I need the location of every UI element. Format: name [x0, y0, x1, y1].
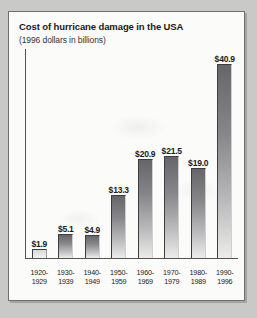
bar-slot: $5.1 — [53, 49, 80, 258]
bar-slot: $40.9 — [212, 49, 239, 258]
x-axis-tick-label: 1990- 1996 — [212, 268, 239, 286]
bar-slot: $1.9 — [26, 49, 53, 258]
page-title: Cost of hurricane damage in the USA — [19, 21, 199, 33]
bar-series: $1.9 $5.1 $4.9 $13.3 $20.9 — [26, 49, 238, 258]
bar[interactable]: $20.9 — [138, 159, 153, 258]
x-tick-line-1: 1950- — [106, 268, 133, 277]
bar-slot: $13.3 — [106, 49, 133, 258]
x-tick-line-1: 1960- — [132, 268, 159, 277]
bar-slot: $4.9 — [79, 49, 106, 258]
x-axis-tick-label: 1960- 1969 — [132, 268, 159, 286]
x-axis-tick-label: 1940- 1949 — [79, 268, 106, 286]
x-tick-line-2: 1989 — [185, 277, 212, 286]
x-axis-tick-label: 1950- 1959 — [106, 268, 133, 286]
bar-value-label: $1.9 — [31, 239, 47, 249]
bar-slot: $21.5 — [159, 49, 186, 258]
x-tick-line-1: 1940- — [79, 268, 106, 277]
bar-value-label: $21.5 — [162, 146, 182, 156]
x-tick-line-2: 1929 — [26, 277, 53, 286]
x-tick-line-1: 1930- — [53, 268, 80, 277]
x-tick-line-1: 1980- — [185, 268, 212, 277]
chart-panel: Cost of hurricane damage in the USA (199… — [8, 11, 245, 301]
bar[interactable]: $13.3 — [111, 195, 126, 258]
bar-value-label: $40.9 — [215, 54, 235, 64]
x-tick-line-1: 1970- — [159, 268, 186, 277]
plot-area: $1.9 $5.1 $4.9 $13.3 $20.9 — [25, 49, 238, 259]
x-axis-tick-label: 1930- 1939 — [53, 268, 80, 286]
x-axis-tick-label: 1920- 1929 — [26, 268, 53, 286]
x-tick-line-2: 1979 — [159, 277, 186, 286]
bar[interactable]: $5.1 — [58, 234, 73, 258]
bar[interactable]: $1.9 — [32, 249, 47, 258]
bar-value-label: $19.0 — [188, 158, 208, 168]
x-axis-tick-labels: 1920- 1929 1930- 1939 1940- 1949 1950- 1… — [26, 268, 238, 286]
bar-value-label: $13.3 — [109, 185, 129, 195]
x-tick-line-1: 1990- — [212, 268, 239, 277]
bar[interactable]: $19.0 — [191, 168, 206, 258]
bar-slot: $20.9 — [132, 49, 159, 258]
x-axis-tick-label: 1980- 1989 — [185, 268, 212, 286]
chart-header: Cost of hurricane damage in the USA (199… — [19, 21, 199, 46]
bar-value-label: $4.9 — [84, 225, 100, 235]
x-axis-line — [25, 258, 238, 259]
x-tick-line-2: 1996 — [212, 277, 239, 286]
bar-value-label: $5.1 — [58, 224, 74, 234]
chart-subtitle: (1996 dollars in billions) — [19, 34, 199, 46]
bar[interactable]: $21.5 — [164, 156, 179, 258]
bar[interactable]: $4.9 — [85, 235, 100, 258]
x-axis-tick-label: 1970- 1979 — [159, 268, 186, 286]
bar-slot: $19.0 — [185, 49, 212, 258]
x-tick-line-2: 1969 — [132, 277, 159, 286]
x-tick-line-2: 1939 — [53, 277, 80, 286]
x-tick-line-2: 1949 — [79, 277, 106, 286]
bar-value-label: $20.9 — [135, 149, 155, 159]
bar[interactable]: $40.9 — [217, 64, 232, 258]
x-tick-line-2: 1959 — [106, 277, 133, 286]
x-tick-line-1: 1920- — [26, 268, 53, 277]
